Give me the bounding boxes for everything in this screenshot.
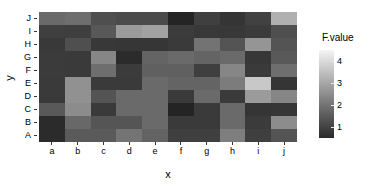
heatmap-cell [91,77,117,90]
heatmap-cell [116,51,142,64]
legend-tick-label: 2 [334,100,342,110]
heatmap-cell [65,77,91,90]
heatmap-row [39,116,297,129]
heatmap-cell [220,51,246,64]
heatmap-cell [220,90,246,103]
heatmap-cell [220,64,246,77]
legend-tick-mark [331,83,334,84]
heatmap-cell [142,25,168,38]
heatmap-cell [116,38,142,51]
y-axis-tick-mark [34,90,38,103]
heatmap-cell [65,129,91,142]
heatmap-cell [39,12,65,25]
x-axis-tick-label: d [116,147,142,159]
heatmap-cell [142,64,168,77]
heatmap-cell [142,90,168,103]
heatmap-cell [194,25,220,38]
y-axis-tick-mark [34,77,38,90]
heatmap-cell [271,51,297,64]
heatmap-cell [168,116,194,129]
heatmap-panel [39,12,297,142]
heatmap-cell [116,64,142,77]
heatmap-cell [245,116,271,129]
heatmap-row [39,51,297,64]
x-axis-tick-label: h [220,147,246,159]
legend-tick-mark [331,61,334,62]
heatmap-cell [245,77,271,90]
heatmap-row [39,77,297,90]
y-axis-tick-mark [34,103,38,116]
heatmap-cell [65,25,91,38]
legend-tick-mark [331,105,334,106]
heatmap-cell [142,38,168,51]
heatmap-cell [271,90,297,103]
x-axis-tick-label: a [39,147,65,159]
heatmap-cell [142,51,168,64]
y-axis-tick-label: E [14,77,32,90]
legend-colorbar [319,50,334,138]
heatmap-cell [271,116,297,129]
x-axis-tick-labels: abcdefghij [39,147,297,159]
heatmap-cell [39,77,65,90]
legend-title: F.value [322,32,354,43]
legend-tick-label: 4 [334,56,342,66]
heatmap-cell [39,25,65,38]
heatmap-cell [194,103,220,116]
y-axis-tick-label: I [14,25,32,38]
heatmap-cell [245,51,271,64]
heatmap-row [39,38,297,51]
heatmap-cell [220,116,246,129]
heatmap-cell [65,103,91,116]
y-axis-tick-label: H [14,38,32,51]
x-axis-tick-label: g [194,147,220,159]
y-axis-tick-mark [34,129,38,142]
heatmap-cell [39,38,65,51]
heatmap-cell [91,116,117,129]
heatmap-row [39,64,297,77]
y-axis-tick-mark [34,38,38,51]
y-axis-tick-mark [34,12,38,25]
x-axis-title: x [39,168,297,180]
heatmap-cell [245,25,271,38]
heatmap-cell [271,103,297,116]
y-axis-tick-label: C [14,103,32,116]
heatmap-cell [65,90,91,103]
heatmap-cell [116,116,142,129]
heatmap-cell [116,103,142,116]
heatmap-row [39,129,297,142]
heatmap-cell [271,25,297,38]
y-axis-tick-marks [34,12,38,142]
heatmap-cell [168,77,194,90]
y-axis-tick-mark [34,116,38,129]
heatmap-cell [194,51,220,64]
legend-tick-label: 3 [334,78,342,88]
legend: F.value 4321 [316,32,376,142]
heatmap-cell [168,129,194,142]
heatmap-cell [116,77,142,90]
heatmap-cell [245,38,271,51]
x-axis-tick-label: b [65,147,91,159]
heatmap-cell [39,129,65,142]
heatmap-cell [91,51,117,64]
heatmap-cell [116,12,142,25]
heatmap-cell [245,12,271,25]
heatmap-cell [168,90,194,103]
heatmap-cell [220,103,246,116]
heatmap-cell [271,64,297,77]
heatmap-cell [116,90,142,103]
y-axis-tick-mark [34,25,38,38]
heatmap-row [39,103,297,116]
heatmap-cell [116,25,142,38]
heatmap-cell [142,116,168,129]
heatmap-cell [220,25,246,38]
heatmap-cell [91,64,117,77]
heatmap-cell [168,51,194,64]
heatmap-cell [65,51,91,64]
heatmap-row [39,12,297,25]
y-axis-tick-label: G [14,51,32,64]
x-axis-tick-label: f [168,147,194,159]
heatmap-cell [65,64,91,77]
heatmap-cell [39,116,65,129]
heatmap-cell [194,64,220,77]
heatmap-cell [220,12,246,25]
